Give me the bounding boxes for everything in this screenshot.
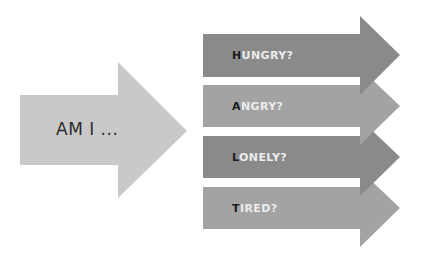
arrow-tired-label: TIRED? [232,202,278,215]
arrow-angry-label: ANGRY? [232,100,283,113]
arrow-angry-initial: A [232,100,241,113]
arrow-hungry-initial: H [232,49,242,62]
main-arrow-label: AM I ... [56,119,118,139]
arrow-tired-rest: IRED? [240,202,278,215]
arrow-lonely-initial: L [232,151,239,164]
arrow-hungry-label: HUNGRY? [232,49,293,62]
arrow-hungry-rest: UNGRY? [242,49,294,62]
arrow-tired-initial: T [232,202,240,215]
arrow-lonely-label: LONELY? [232,151,287,164]
arrow-angry-rest: NGRY? [241,100,283,113]
arrow-lonely-rest: ONELY? [239,151,287,164]
